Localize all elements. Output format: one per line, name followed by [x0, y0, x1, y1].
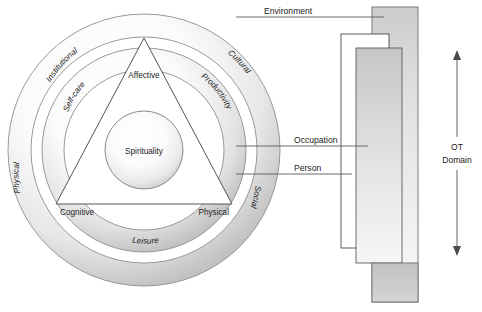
occupation-block	[356, 48, 402, 263]
core-label-spirituality: Spirituality	[125, 147, 164, 156]
figure-canvas: Institutional Cultural Physical Social S…	[0, 0, 482, 312]
scale-label-line-2: Domain	[442, 155, 472, 165]
triangle-label-physical-inner: Physical	[199, 208, 230, 217]
domain-block-stack	[341, 7, 418, 302]
callout-label-occupation: Occupation	[294, 135, 338, 145]
callout-label-person: Person	[294, 163, 321, 173]
ot-domain-scale: OT Domain	[442, 50, 472, 256]
ring-label-leisure: Leisure	[132, 236, 160, 246]
triangle-label-affective: Affective	[128, 71, 160, 80]
triangle-label-cognitive: Cognitive	[60, 208, 95, 217]
scale-arrow-down-head	[453, 246, 461, 256]
ring-label-physical-outer: Physical	[12, 162, 22, 194]
scale-arrow-up-head	[453, 50, 461, 60]
scale-label-line-1: OT	[451, 142, 464, 152]
callout-label-environment: Environment	[264, 6, 313, 16]
block-foot-plate	[372, 263, 418, 302]
ot-domain-diagram: Institutional Cultural Physical Social S…	[0, 0, 482, 312]
